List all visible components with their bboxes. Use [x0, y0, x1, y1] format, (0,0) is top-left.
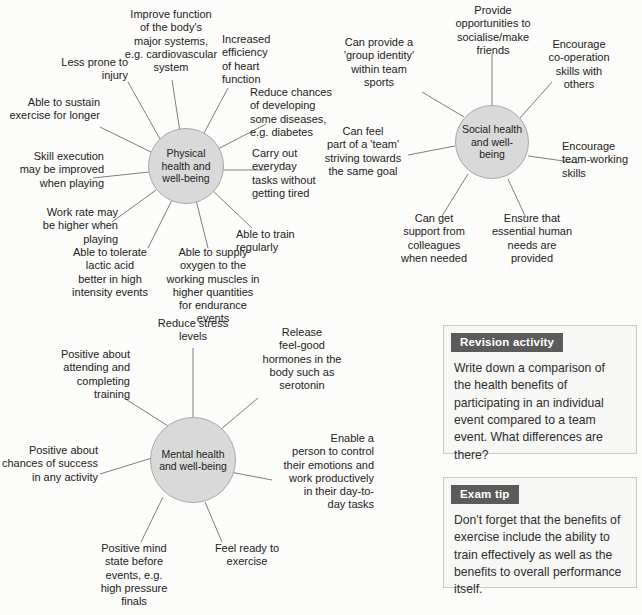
leaf-release-feel-good-hormones: Release feel-good hormones in the body s… [252, 326, 352, 392]
leaf-sustain-exercise-longer: Able to sustain exercise for longer [0, 96, 100, 123]
diagram-mental-health: Mental health and well-being Reduce stre… [0, 320, 400, 615]
leaf-increased-efficiency: Increased efficiency of heart function [222, 33, 302, 86]
leaf-reduce-stress-levels: Reduce stress levels [144, 317, 242, 344]
leaf-ensure-essential-human-needs: Ensure that essential human needs are pr… [482, 212, 582, 265]
exam-tip-body: Don't forget that the benefits of exerci… [444, 504, 636, 609]
leaf-encourage-co-operation: Encourage co-operation skills with other… [532, 38, 626, 91]
leaf-skill-execution: Skill execution may be improved when pla… [0, 150, 104, 190]
leaf-positive-attending-training: Positive about attending and completing … [42, 348, 130, 401]
callout-exam-tip: Exam tip Don't forget that the benefits … [443, 477, 637, 588]
hub-mental-health: Mental health and well-being [150, 417, 236, 503]
hub-social-health: Social health and well-being [455, 105, 529, 179]
exam-tip-title: Exam tip [451, 485, 519, 504]
leaf-feel-part-of-team: Can feel part of a 'team' striving towar… [310, 125, 416, 178]
revision-activity-title: Revision activity [451, 333, 563, 352]
leaf-feel-ready-to-exercise: Feel ready to exercise [196, 542, 298, 569]
hub-physical-health: Physical health and well-being [148, 128, 224, 204]
leaf-work-rate-higher: Work rate may be higher when playing [10, 206, 118, 246]
leaf-able-to-supply-oxygen: Able to supply oxygen to the working mus… [158, 246, 268, 326]
leaf-tolerate-lactic-acid: Able to tolerate lactic acid better in h… [60, 246, 160, 299]
leaf-group-identity: Can provide a 'group identity' within te… [330, 36, 428, 89]
leaf-enable-control-emotions: Enable a person to control their emotion… [270, 432, 374, 512]
leaf-less-prone-to-injury: Less prone to injury [34, 56, 128, 83]
leaf-get-support-from-colleagues: Can get support from colleagues when nee… [386, 212, 482, 265]
callout-revision-activity: Revision activity Write down a compariso… [443, 325, 637, 454]
diagram-social-health: Social health and well-being Provide opp… [330, 0, 642, 290]
leaf-positive-chances-of-success: Positive about chances of success in any… [0, 444, 98, 484]
leaf-encourage-team-working: Encourage team-working skills [562, 140, 642, 180]
diagram-physical-health: Physical health and well-being Improve f… [0, 0, 360, 320]
page-canvas: Physical health and well-being Improve f… [0, 0, 642, 615]
revision-activity-body: Write down a comparison of the health be… [444, 352, 636, 474]
leaf-positive-mind-state: Positive mind state before events, e.g. … [82, 542, 186, 608]
